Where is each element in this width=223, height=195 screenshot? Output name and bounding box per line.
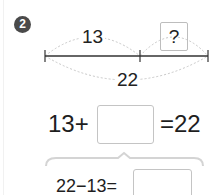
tape-diagram	[0, 0, 223, 100]
bracket	[0, 150, 223, 170]
answer-box-sub[interactable]	[133, 169, 192, 195]
total-label: 22	[115, 69, 140, 91]
unknown-box: ?	[160, 22, 188, 51]
sub-equation-left: 22−13=	[56, 176, 117, 195]
equation-left: 13+	[48, 110, 89, 138]
answer-box-main[interactable]	[97, 105, 154, 144]
equation-right: =22	[160, 110, 201, 138]
part-label: 13	[80, 26, 105, 48]
